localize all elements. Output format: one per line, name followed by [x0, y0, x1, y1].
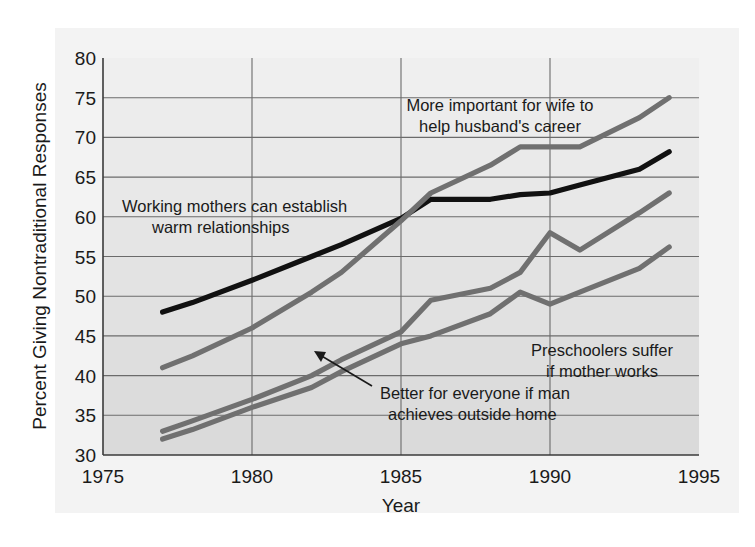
annotation-preschoolers-line1: Preschoolers suffer — [531, 341, 673, 359]
annotation-man-achieves-line1: Better for everyone if man — [380, 384, 570, 402]
x-tick-1980: 1980 — [231, 466, 273, 487]
y-tick-55: 55 — [75, 247, 96, 268]
x-tick-1985: 1985 — [380, 466, 422, 487]
y-tick-70: 70 — [75, 127, 96, 148]
line-chart: 80 75 70 65 60 55 50 45 40 35 30 1975 19… — [0, 0, 755, 547]
x-tick-1995: 1995 — [678, 466, 720, 487]
annotation-wife-career-line2: help husband's career — [419, 117, 581, 135]
y-tick-40: 40 — [75, 366, 96, 387]
y-tick-45: 45 — [75, 326, 96, 347]
y-tick-80: 80 — [75, 48, 96, 69]
x-tick-1990: 1990 — [529, 466, 571, 487]
y-axis-title: Percent Giving Nontraditional Responses — [29, 82, 50, 429]
annotation-man-achieves-line2: achieves outside home — [388, 405, 557, 423]
y-tick-50: 50 — [75, 286, 96, 307]
annotation-preschoolers-line2: if mother works — [546, 362, 658, 380]
x-axis-title: Year — [382, 495, 421, 516]
y-tick-65: 65 — [75, 167, 96, 188]
y-tick-75: 75 — [75, 88, 96, 109]
annotation-wife-career-line1: More important for wife to — [406, 96, 593, 114]
x-tick-1975: 1975 — [82, 466, 124, 487]
y-tick-60: 60 — [75, 207, 96, 228]
annotation-working-mothers-line2: warm relationships — [151, 218, 290, 236]
y-tick-30: 30 — [75, 445, 96, 466]
y-tick-35: 35 — [75, 405, 96, 426]
annotation-working-mothers-line1: Working mothers can establish — [122, 197, 347, 215]
figure-container: 80 75 70 65 60 55 50 45 40 35 30 1975 19… — [0, 0, 755, 547]
